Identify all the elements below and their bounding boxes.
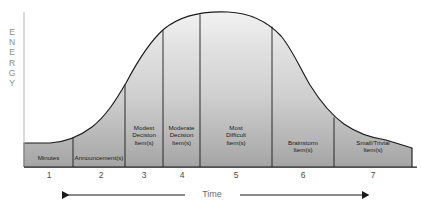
y-axis-label-letter-y: Y [4,78,20,88]
y-axis-label-letter-g: G [4,68,20,78]
chart-canvas [0,0,421,212]
segment-label-modest-decision-items: Modest Decision Item(s) [125,124,163,146]
y-axis-label-letter-e1: E [4,27,20,37]
y-axis-label-letter-e2: E [4,47,20,57]
segment-label-announcements: Announcement(s) [73,154,125,161]
energy-vs-time-chart: E N E R G Y Minutes Announcement(s) Mode… [0,0,421,212]
x-tick-2: 2 [91,170,111,180]
segment-label-brainstorm-items: Brainstorm Item(s) [272,139,334,154]
y-axis-label-letter-r: R [4,58,20,68]
segment-label-small-trivial-items: Small/Trivial Item(s) [334,139,412,154]
x-tick-5: 5 [226,170,246,180]
x-axis-label: Time [190,189,234,199]
x-tick-4: 4 [172,170,192,180]
y-axis-label: E N E R G Y [4,27,20,88]
segment-label-minutes: Minutes [24,154,73,161]
x-tick-7: 7 [363,170,383,180]
segment-label-most-difficult-items: Most Difficult Item(s) [200,124,272,146]
x-tick-1: 1 [39,170,59,180]
y-axis-label-letter-n: N [4,37,20,47]
x-tick-6: 6 [293,170,313,180]
segment-label-moderate-decision-items: Moderate Decision Item(s) [163,124,200,146]
x-tick-3: 3 [134,170,154,180]
